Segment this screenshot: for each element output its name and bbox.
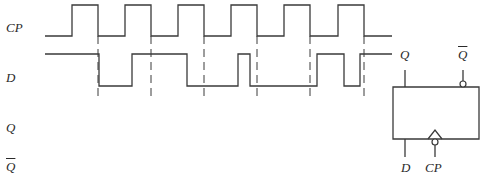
d-flipflop-symbol [393,70,479,157]
cp-waveform [45,5,392,36]
d-waveform [45,54,392,86]
label-qbar: Q [6,160,15,173]
clock-edge-markers [98,36,364,100]
ff-label-q: Q [400,48,409,61]
ff-label-cp: CP [425,161,442,174]
label-d: D [6,71,15,84]
label-cp: CP [6,21,23,34]
ff-label-d: D [401,161,410,174]
label-q: Q [6,121,15,134]
timing-diagram [0,0,483,180]
ff-label-qbar: Q [458,48,467,61]
